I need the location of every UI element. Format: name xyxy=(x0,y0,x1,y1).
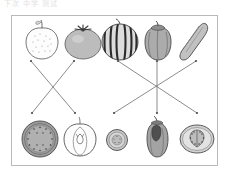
cucumber-whole-icon xyxy=(180,23,208,60)
apple-whole-icon xyxy=(26,20,58,59)
watermelon-whole-icon xyxy=(102,19,138,61)
line-cucumber-to-cucumber-section xyxy=(114,61,196,113)
pepper-section-icon xyxy=(147,116,168,157)
tomato-whole-icon xyxy=(65,25,101,59)
watermelon-section-icon xyxy=(22,121,58,157)
line-watermelon-to-tomato-section xyxy=(118,61,197,113)
pepper-whole-icon xyxy=(145,21,171,60)
tomato-section-icon xyxy=(180,125,214,153)
cucumber-section-icon xyxy=(107,130,128,151)
connection-lines xyxy=(30,60,198,114)
worksheet-illustration xyxy=(0,0,229,172)
apple-section-icon xyxy=(64,117,96,156)
line-tomato-to-watermelon-section xyxy=(32,61,74,113)
